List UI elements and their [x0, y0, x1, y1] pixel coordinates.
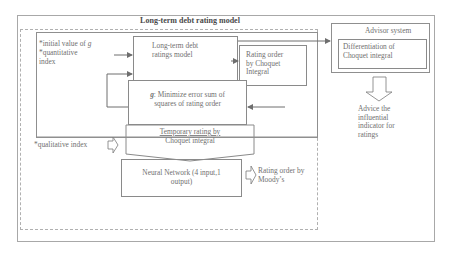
main-title: Long-term debt rating model [100, 17, 280, 26]
advisor-system-box: Advisor system Differentiation of Choque… [331, 23, 430, 73]
input-quantitative-index: *quantitative index [39, 49, 78, 66]
minimize-error-text: : Minimize error sum of [154, 90, 225, 99]
advice-text: Advice the influential indicator for rat… [358, 105, 395, 139]
input-qualitative-index: *qualitative index [34, 141, 87, 150]
rating-order-moodys: Rating order by Moody’s [258, 167, 304, 184]
temporary-rating-line2: Choquet integral [126, 137, 254, 146]
rating-order-line3: Integral [246, 68, 283, 77]
ratings-model-box: Long-term debt ratings model [133, 36, 238, 81]
moodys-line2: Moody’s [258, 176, 304, 185]
neural-network-box: Neural Network (4 input,1 output) [121, 159, 242, 197]
ratings-model-line2: ratings model [152, 51, 198, 60]
advisor-system-title: Advisor system [365, 27, 411, 36]
neural-network-line2: output) [122, 178, 241, 187]
initial-value-label: *initial value of [39, 39, 88, 48]
g-symbol: g [88, 39, 92, 48]
minimize-error-box: g: Minimize error sum of squares of rati… [128, 80, 247, 125]
quantitative-line2: index [39, 58, 78, 67]
differentiation-box: Differentiation of Choquet integral [338, 39, 427, 69]
rating-order-choquet-box: Rating order by Choquet Integral [239, 45, 307, 86]
temporary-rating-label: Temporary rating by Choquet integral [126, 128, 254, 145]
differentiation-line2: Choquet integral [343, 52, 395, 61]
minimize-error-line2: squares of rating order [129, 100, 246, 109]
advice-line4: ratings [358, 131, 395, 140]
